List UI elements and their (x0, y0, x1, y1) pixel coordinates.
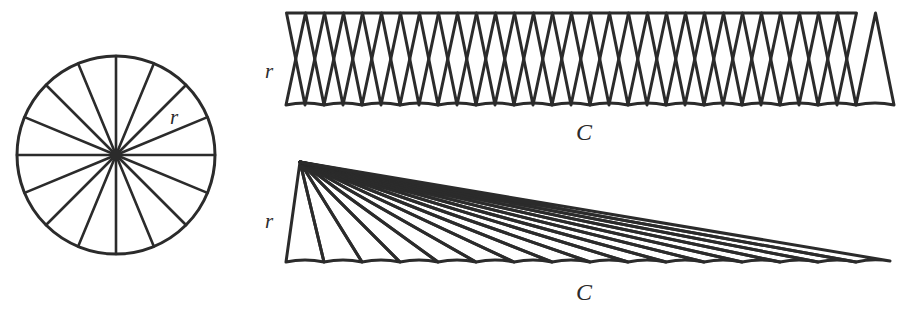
fan-circumference-label: C (576, 279, 593, 305)
strip-triangle-up (400, 13, 438, 105)
spoke (46, 85, 116, 155)
strip-triangle-down (401, 13, 439, 105)
strip-triangle-down (439, 13, 477, 105)
strip-triangle-up (514, 13, 552, 105)
strip-triangle-up (742, 13, 780, 105)
strip-triangle-up (438, 13, 476, 105)
figure-canvas: r (0, 0, 908, 310)
geometry-figure: r (0, 0, 908, 310)
strip-circumference-label: C (576, 119, 593, 145)
fan-triangles (286, 162, 890, 262)
strip-triangle-up (552, 13, 590, 105)
strip-triangle-down (515, 13, 553, 105)
strip-triangle-down (819, 13, 857, 105)
strip-triangle-up (286, 13, 324, 105)
strip-triangle-down (553, 13, 591, 105)
strip-triangle-down (781, 13, 819, 105)
circle-panel: r (17, 56, 215, 254)
strip-triangle-up (476, 13, 514, 105)
strip-triangle-down (705, 13, 743, 105)
strip-triangle-up (590, 13, 628, 105)
circle-center-dot (110, 149, 122, 161)
strip-triangle-up (856, 13, 894, 105)
strip-triangle-down (363, 13, 401, 105)
strip-triangle-down (743, 13, 781, 105)
strip-triangle-up (666, 13, 704, 105)
strip-radius-label: r (265, 59, 274, 83)
fan-radius-label: r (265, 209, 274, 233)
strip-triangle-down (325, 13, 363, 105)
strip-triangle-down (591, 13, 629, 105)
strip-triangles (286, 13, 894, 105)
strip-triangle-up (362, 13, 400, 105)
spoke (116, 155, 186, 225)
strip-triangle-down (629, 13, 667, 105)
strip-triangle-up (818, 13, 856, 105)
strip-triangle-up (628, 13, 666, 105)
strip-triangle-up (324, 13, 362, 105)
strip-triangle-up (780, 13, 818, 105)
spoke (46, 155, 116, 225)
strip-triangle-down (667, 13, 705, 105)
strip-triangle-down (477, 13, 515, 105)
triangle-strip-panel: r C (265, 13, 894, 145)
strip-triangle-down (287, 13, 325, 105)
circle-radius-label: r (170, 105, 179, 129)
fan-panel: r C (265, 162, 890, 305)
strip-triangle-up (704, 13, 742, 105)
